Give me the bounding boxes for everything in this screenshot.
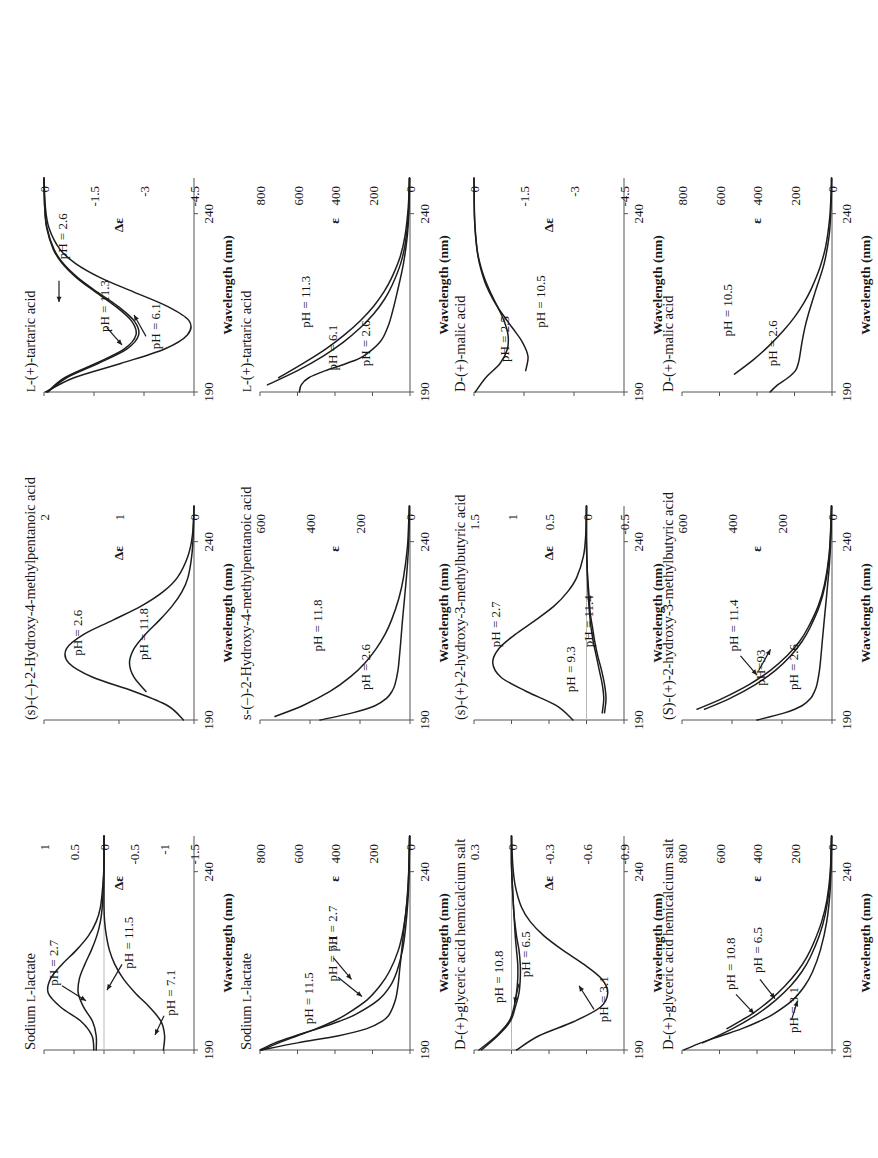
title-smallcap: L [241, 385, 253, 392]
plot-area: 0-1.5-3-4.5Δε190240Wavelength (nm)pH = 2… [44, 178, 194, 392]
x-tick-label: 240 [417, 204, 433, 224]
series-annotation-1: pH = 11.8 [137, 608, 150, 660]
x-tick-label: 190 [417, 382, 433, 402]
series-annotation-2: pH = 3.1 [597, 976, 610, 1022]
series-curve-1 [703, 836, 832, 1043]
series-annotation-0: pH = 2.5 [498, 316, 511, 362]
y-tick-label: -4.5 [188, 186, 201, 207]
y-tick-label: 0 [188, 514, 201, 521]
y-tick-label: -0.5 [128, 844, 141, 865]
series-annotation-1: pH = 11.5 [122, 917, 135, 969]
series-annotation-1: pH = 6.5 [519, 931, 532, 977]
y-tick-label: 200 [788, 844, 801, 864]
y-axis-title: ε [749, 546, 765, 552]
series-annotation-0: pH = 10.8 [492, 950, 505, 1002]
x-tick-label: 240 [839, 862, 855, 882]
y-tick-label: 0 [826, 514, 839, 521]
y-tick-label: 400 [329, 186, 342, 206]
y-tick-label: 0 [38, 186, 51, 193]
x-tick-label: 190 [417, 710, 433, 730]
y-tick-label: 0 [826, 844, 839, 851]
series-annotation-1: pH = 10.5 [534, 275, 547, 327]
series-annotation-2: pH = 11.4 [582, 595, 595, 647]
y-tick-label: 0 [98, 844, 111, 851]
x-tick-label: 240 [417, 532, 433, 552]
y-tick-label: 0 [404, 844, 417, 851]
y-tick-label: 400 [329, 844, 342, 864]
spectra-panel-lactate-cd: Sodium L-lactate10.50-0.5-1-1.5Δε190240W… [22, 810, 262, 1096]
y-tick-label: 1 [505, 514, 518, 521]
series-annotation-1: pH = 9.3 [564, 646, 577, 692]
plot-svg [682, 178, 832, 392]
y-axis-title: Δε [111, 546, 127, 560]
plot-area: 8006004002000ε190240Wavelength (nm)pH = … [260, 836, 410, 1050]
plot-area: 6004002000ε190240Wavelength (nm)pH = 11.… [682, 506, 832, 720]
series-annotation-0: pH = 11.4 [727, 600, 740, 652]
y-tick-label: 2 [38, 514, 51, 521]
y-tick-label: 400 [726, 514, 739, 534]
x-axis-title: Wavelength (nm) [858, 235, 874, 334]
plot-area: 1.510.50-0.5Δε190240Wavelength (nm)pH = … [474, 506, 624, 720]
x-tick-label: 190 [631, 710, 647, 730]
series-annotation-0: pH = 11.5 [302, 972, 315, 1024]
y-tick-label: 1 [38, 844, 51, 851]
series-annotation-1: pH = 2.6 [766, 320, 779, 366]
spectra-panel-hmba-uv: (S)-(+)-2-hydroxy-3-methylbutyric acid60… [660, 480, 878, 766]
y-tick-label: 800 [254, 844, 267, 864]
spectra-panel-hmba-cd: (s)-(+)-2-hydroxy-3-methylbutyric acid1.… [452, 480, 692, 766]
series-curve-1 [130, 506, 195, 691]
series-annotation-1: pH=93 [754, 650, 767, 686]
y-tick-label: -1 [158, 844, 171, 855]
x-tick-label: 240 [839, 204, 855, 224]
series-curve-0 [727, 836, 831, 1029]
y-tick-label: 600 [291, 186, 304, 206]
x-tick-label: 190 [201, 710, 217, 730]
y-axis-title: Δε [541, 876, 557, 890]
series-annotation-2: pH = 3.1 [787, 987, 800, 1033]
y-tick-label: 200 [366, 844, 379, 864]
x-tick-label: 240 [631, 204, 647, 224]
series-annotation-2: pH = 7.1 [164, 970, 177, 1016]
series-annotation-1: pH = 6.1 [326, 325, 339, 371]
series-annotation-2: pH = 2.6 [787, 644, 800, 690]
plot-svg [44, 178, 194, 392]
series-annotation-0: pH = 2.6 [56, 213, 69, 259]
spectra-panel-glyceric-uv: D-(+)-glyceric acid hemicalcium salt8006… [660, 810, 878, 1096]
plot-area: 8006004002000ε190240Wavelength (nm)pH = … [260, 178, 410, 392]
y-axis-title: Δε [541, 546, 557, 560]
plot-svg [44, 506, 194, 720]
series-annotation-1: pH = 2.6 [359, 644, 372, 690]
series-curve-1 [705, 506, 832, 709]
y-axis-title: ε [327, 546, 343, 552]
series-annotation-2: pH = 2.7 [326, 906, 339, 952]
series-annotation-0: pH = 11.8 [311, 600, 324, 652]
spectra-panel-lactate-uv: Sodium L-lactate8006004002000ε190240Wave… [238, 810, 478, 1096]
x-axis-title: Wavelength (nm) [858, 893, 874, 992]
y-axis-title: Δε [541, 218, 557, 232]
spectra-panel-malic-cd: D-(+)-malic acid0-1.5-3-4.5Δε190240Wavel… [452, 152, 692, 438]
y-axis-title: ε [749, 876, 765, 882]
spectra-panel-hmpa-cd: (s)-(–)-2-Hydroxy-4-methylpentanoic acid… [22, 480, 262, 766]
series-annotation-0: pH = 2.7 [47, 940, 60, 986]
plot-svg [682, 506, 832, 720]
y-tick-label: 0.5 [543, 514, 556, 530]
x-tick-label: 240 [631, 862, 647, 882]
series-annotation-0: pH = 11.3 [299, 276, 312, 328]
y-tick-label: 200 [354, 514, 367, 534]
plot-area: 8006004002000ε190240Wavelength (nm)pH = … [682, 178, 832, 392]
series-annotation-2: pH = 6.1 [149, 303, 162, 349]
y-tick-label: 800 [676, 844, 689, 864]
series-annotation-0: pH = 10.8 [724, 938, 737, 990]
y-tick-label: -3 [568, 186, 581, 197]
y-tick-label: 0.5 [68, 844, 81, 860]
plot-area: 10.50-0.5-1-1.5Δε190240Wavelength (nm)pH… [44, 836, 194, 1050]
x-axis-title: Wavelength (nm) [220, 235, 236, 334]
x-tick-label: 190 [201, 382, 217, 402]
x-tick-label: 190 [839, 1040, 855, 1060]
y-tick-label: 1 [113, 514, 126, 521]
y-tick-label: 400 [751, 186, 764, 206]
y-tick-label: 0 [404, 186, 417, 193]
plot-area: 0.30-0.3-0.6-0.9Δε190240Wavelength (nm)p… [474, 836, 624, 1050]
x-axis-title: Wavelength (nm) [858, 563, 874, 662]
